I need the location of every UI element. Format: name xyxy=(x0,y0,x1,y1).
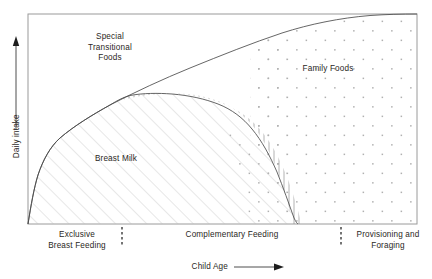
x-axis-label: Child Age xyxy=(172,262,228,273)
y-axis-label: Daily intake xyxy=(12,103,23,169)
x-axis-arrow xyxy=(234,264,284,271)
region-label-special-transitional-foods: Special Transitional Foods xyxy=(64,32,156,64)
region-label-breast-milk: Breast Milk xyxy=(70,154,162,165)
stage-label-provisioning-and-foraging: Provisioning and Foraging xyxy=(346,230,430,251)
diagram-figure: Special Transitional Foods Family Foods … xyxy=(0,0,432,279)
stage-label-complementary-feeding: Complementary Feeding xyxy=(162,230,302,241)
region-label-family-foods: Family Foods xyxy=(286,64,370,75)
stage-label-exclusive-breast-feeding: Exclusive Breast Feeding xyxy=(36,230,118,251)
